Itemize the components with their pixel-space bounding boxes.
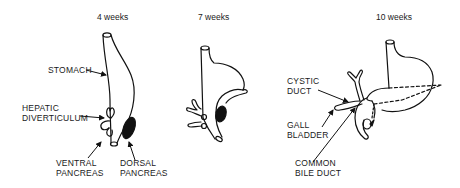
panel-10-weeks-drawing	[335, 40, 441, 139]
label-cystic-duct: CYSTIC DUCT	[287, 76, 319, 96]
label-stomach: STOMACH	[48, 65, 92, 75]
panel-title-10-weeks: 10 weeks	[376, 12, 412, 22]
panel-4-weeks-drawing	[101, 33, 138, 146]
label-ventral-pancreas: VENTRAL PANCREAS	[56, 158, 104, 178]
panel-title-7-weeks: 7 weeks	[198, 12, 229, 22]
pancreas-development-diagram: 4 weeks 7 weeks 10 weeks STOMACH HEPATIC…	[0, 0, 460, 188]
label-common-bile-duct: COMMON BILE DUCT	[295, 158, 341, 178]
panel-7-weeks-drawing	[187, 46, 248, 142]
label-dorsal-pancreas: DORSAL PANCREAS	[120, 158, 168, 178]
label-hepatic-diverticulum: HEPATIC DIVERTICULUM	[22, 103, 88, 123]
panel-title-4-weeks: 4 weeks	[97, 12, 128, 22]
label-gall-bladder: GALL BLADDER	[287, 120, 329, 140]
